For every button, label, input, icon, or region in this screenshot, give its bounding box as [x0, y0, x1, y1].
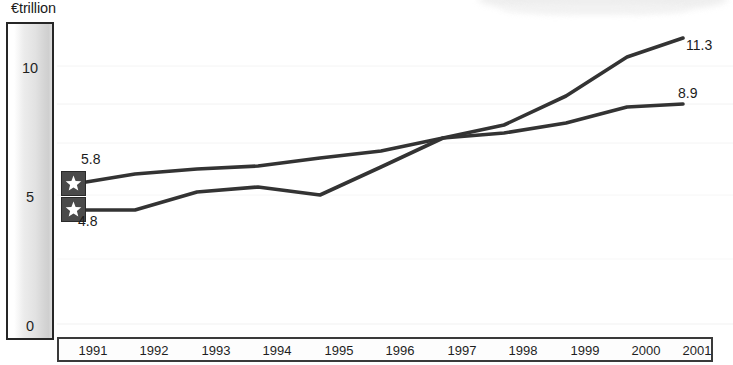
x-tick-label-1997: 1997: [448, 342, 477, 357]
x-tick-label-1994: 1994: [263, 342, 292, 357]
y-tick-label-5: 5: [8, 189, 52, 205]
star-icon: [65, 175, 82, 192]
lower-series-end-value: 8.9: [678, 85, 697, 101]
x-tick-label-1991: 1991: [79, 342, 108, 357]
y-axis-unit-caption: €trillion: [11, 0, 56, 16]
upper-series-start-marker: [61, 171, 86, 196]
upper-series-end-value: 11.3: [686, 37, 712, 53]
upper-series-line: [74, 38, 683, 184]
x-axis-strip: 1991 1992 1993 1994 1995 1996 1997 1998 …: [57, 337, 713, 362]
chart-container: €trillion 10 5 0: [0, 0, 733, 365]
series-canvas: [57, 22, 733, 334]
x-tick-label-1998: 1998: [509, 342, 538, 357]
lower-series-line: [74, 104, 683, 210]
x-tick-label-1993: 1993: [202, 342, 231, 357]
y-tick-label-0: 0: [8, 318, 52, 334]
y-axis-strip: 10 5 0: [6, 22, 54, 340]
gridlines: [57, 66, 733, 324]
x-tick-label-1992: 1992: [140, 342, 169, 357]
x-tick-label-1999: 1999: [571, 342, 600, 357]
y-tick-label-10: 10: [8, 60, 52, 76]
upper-series-start-value: 5.8: [81, 151, 100, 167]
x-tick-label-1996: 1996: [386, 342, 415, 357]
lower-series-start-value: 4.8: [78, 213, 97, 229]
plot-area: [57, 22, 733, 334]
x-tick-label-2001: 2001: [683, 342, 712, 357]
x-tick-label-2000: 2000: [632, 342, 661, 357]
x-tick-label-1995: 1995: [325, 342, 354, 357]
scan-artifact-secondary: [500, 4, 690, 14]
